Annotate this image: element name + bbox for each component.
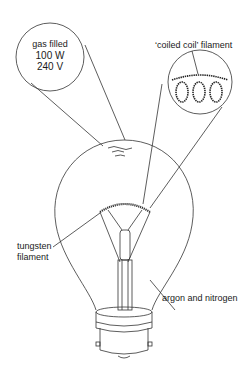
voltage-text: 240 V (27, 61, 73, 72)
argon-nitrogen-label: argon and nitrogen (162, 293, 238, 304)
right-inset-circle (168, 50, 232, 114)
coiled-coil-label: ‘coiled coil’ filament (155, 40, 232, 51)
left-inset-label: gas filled 100 W 240 V (27, 39, 73, 72)
coiled-coil-detail (172, 75, 228, 102)
bulb-glass (55, 140, 194, 310)
wattage-text: 100 W (27, 50, 73, 61)
gas-filled-text: gas filled (27, 39, 73, 50)
filament (100, 204, 150, 212)
tungsten-filament-label: tungsten filament (17, 241, 52, 263)
